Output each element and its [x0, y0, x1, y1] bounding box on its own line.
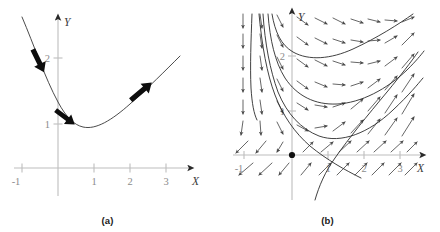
- y-tick-label-1: 1: [45, 119, 50, 130]
- x-tick-label-3: 3: [163, 176, 168, 187]
- trajectory-1: [259, 14, 361, 178]
- axis-x-label: X: [191, 175, 200, 187]
- origin-dot: [289, 152, 295, 158]
- figure-container: -1 1 2 3 1 2 X Y: [0, 0, 440, 232]
- x-tick-label-1: 1: [91, 176, 96, 187]
- trajectory-5: [251, 14, 257, 120]
- x-tick-label--1: -1: [12, 176, 21, 187]
- panel-b-caption: (b): [215, 215, 440, 226]
- direction-arrow-near-minimum: [52, 105, 78, 129]
- x-tick-label-2: 2: [127, 176, 132, 187]
- y-tick-label-2: 2: [280, 51, 285, 62]
- direction-arrow-right-branch: [127, 78, 156, 105]
- panel-b-plot: -1 1 2 3 1 2 X Y: [215, 0, 440, 232]
- axis-x-label: X: [416, 162, 425, 174]
- panel-a-caption: (a): [0, 215, 215, 226]
- panel-a-plot: -1 1 2 3 1 2 X Y: [0, 0, 215, 232]
- panel-a: -1 1 2 3 1 2 X Y: [0, 0, 215, 232]
- x-tick-label-3: 3: [397, 163, 402, 174]
- panel-b: -1 1 2 3 1 2 X Y: [215, 0, 440, 232]
- axis-y-label: Y: [64, 16, 72, 28]
- trajectory-3: [268, 14, 424, 104]
- axis-y-label: Y: [298, 11, 306, 23]
- solution-curve: [22, 17, 180, 128]
- vector-field: [236, 14, 417, 175]
